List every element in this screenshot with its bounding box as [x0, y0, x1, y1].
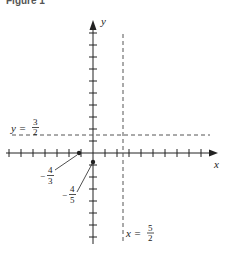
y-intercept-point: − 4 5	[62, 160, 95, 205]
y-arrow-icon	[90, 20, 97, 30]
x-arrow-icon	[209, 150, 218, 157]
svg-text:4: 4	[48, 165, 53, 175]
horizontal-asymptote-label: y = 3 2	[10, 117, 39, 137]
svg-text:2: 2	[33, 127, 38, 137]
svg-text:−: −	[40, 171, 45, 181]
svg-text:4: 4	[70, 184, 75, 194]
x-axis-label: x	[213, 158, 219, 170]
svg-text:3: 3	[48, 176, 53, 186]
svg-text:3: 3	[33, 117, 38, 127]
svg-text:5: 5	[70, 195, 75, 205]
y-axis	[89, 20, 97, 244]
vertical-asymptote-label: x = 5 2	[125, 223, 154, 243]
svg-text:x =: x =	[125, 227, 141, 239]
x-axis	[6, 149, 218, 157]
svg-text:2: 2	[148, 233, 153, 243]
svg-text:5: 5	[148, 223, 153, 233]
x-intercept-point: − 4 3	[40, 151, 81, 186]
svg-text:y =: y =	[10, 122, 26, 134]
y-axis-label: y	[100, 15, 106, 27]
svg-text:−: −	[62, 190, 67, 200]
coordinate-plane: y x y = 3 2 x = 5 2 − 4 3 − 4 5	[0, 0, 230, 256]
